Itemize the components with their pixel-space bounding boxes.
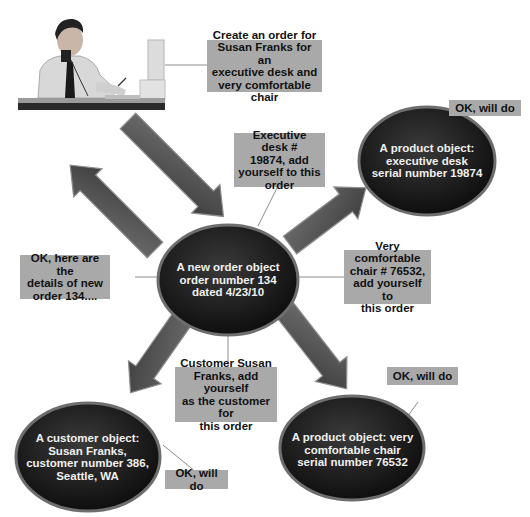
message-chair-add: Very comfortable chair # 76532, add your… [344,250,431,304]
message-ok-chair: OK, will do [387,367,458,385]
arrow-order-to-person [56,151,169,264]
object-desk-product: A product object: executive desk serial … [362,138,492,184]
message-ok-desk: OK, will do [449,100,521,116]
message-customer-add: Customer Susan Franks, add yourself as t… [175,367,277,422]
message-create-order: Create an order for Susan Franks for an … [207,40,322,92]
person-on-phone-at-desk-icon [18,19,165,110]
object-customer: A customer object: Susan Franks, custome… [20,428,155,486]
message-order-details: OK, here are the details of new order 13… [20,255,110,299]
object-chair-product: A product object: very comfortable chair… [280,427,425,473]
object-order: A new order object order number 134 date… [163,255,293,305]
message-desk-add: Executive desk # 19874, add yourself to … [234,133,325,187]
message-ok-customer: OK, will do [165,470,228,489]
object-interaction-diagram: Create an order for Susan Franks for an … [0,0,530,517]
